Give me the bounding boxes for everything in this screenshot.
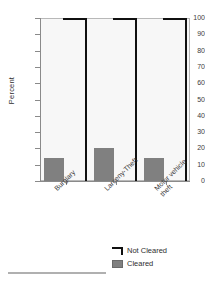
- y-axis-tick: [35, 116, 40, 117]
- legend-label: Cleared: [127, 259, 153, 268]
- y-axis-tick: [35, 165, 40, 166]
- bar-cleared: [94, 148, 114, 181]
- y-axis-tick: [35, 51, 40, 52]
- y-axis-tick: [35, 148, 40, 149]
- y-axis-tick: [35, 100, 40, 101]
- legend-item-cleared: Cleared: [112, 258, 167, 269]
- y-axis-tick: [35, 132, 40, 133]
- y-axis-tick: [35, 34, 40, 35]
- outline-box-icon: [112, 247, 123, 255]
- legend-label: Not Cleared: [127, 246, 167, 255]
- y-axis-tick: [35, 18, 40, 19]
- y-axis-line: [40, 18, 41, 181]
- legend-item-not-cleared: Not Cleared: [112, 245, 167, 256]
- footer-divider: [8, 272, 106, 274]
- filled-box-icon: [112, 260, 123, 268]
- y-axis-tick: [35, 67, 40, 68]
- bar-not-cleared: [63, 18, 87, 181]
- y-axis-tick: [35, 83, 40, 84]
- chart-figure: 1009080706050403020100 Percent BurglaryL…: [0, 0, 205, 285]
- chart-legend: Not Cleared Cleared: [112, 245, 167, 271]
- y-axis-title: Percent: [7, 68, 16, 114]
